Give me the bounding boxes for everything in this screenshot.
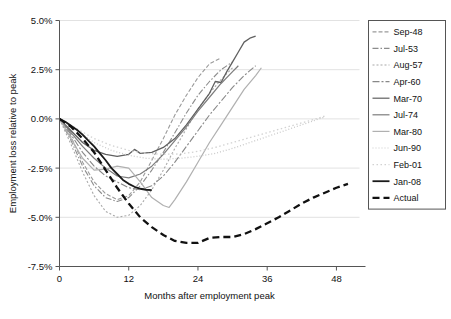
x-tick-label-0: 0 bbox=[57, 273, 62, 284]
legend-label-sep-48[interactable]: Sep-48 bbox=[394, 27, 423, 37]
chart-container: 5.0%2.5%0.0%-2.5%-5.0%-7.5%012243648Mont… bbox=[0, 0, 451, 319]
legend-label-apr-60[interactable]: Apr-60 bbox=[394, 77, 421, 87]
legend-label-feb-01[interactable]: Feb-01 bbox=[394, 160, 423, 170]
gridlines bbox=[60, 21, 360, 218]
y-tick-label-1: 2.5% bbox=[31, 64, 53, 75]
axis-ticks bbox=[56, 21, 337, 271]
legend-label-mar-70[interactable]: Mar-70 bbox=[394, 94, 423, 104]
series-feb-01 bbox=[60, 116, 325, 154]
legend-label-jan-08[interactable]: Jan-08 bbox=[394, 177, 422, 187]
y-tick-label-4: -5.0% bbox=[28, 212, 53, 223]
legend-label-actual[interactable]: Actual bbox=[394, 193, 419, 203]
legend-label-jul-74[interactable]: Jul-74 bbox=[394, 110, 419, 120]
x-tick-label-3: 36 bbox=[262, 273, 273, 284]
series-mar-70 bbox=[60, 36, 256, 156]
x-axis-title: Months after employment peak bbox=[144, 290, 275, 301]
axis-labels: 5.0%2.5%0.0%-2.5%-5.0%-7.5%012243648Mont… bbox=[7, 15, 342, 301]
series-apr-60 bbox=[60, 66, 256, 190]
legend-label-mar-80[interactable]: Mar-80 bbox=[394, 127, 423, 137]
legend-label-aug-57[interactable]: Aug-57 bbox=[394, 60, 423, 70]
series-actual bbox=[60, 119, 348, 243]
x-tick-label-2: 24 bbox=[193, 273, 204, 284]
legend[interactable]: Sep-48Jul-53Aug-57Apr-60Mar-70Jul-74Mar-… bbox=[369, 21, 446, 210]
series-sep-48 bbox=[60, 58, 222, 200]
series-jul-53 bbox=[60, 62, 233, 202]
y-tick-label-0: 5.0% bbox=[31, 15, 53, 26]
data-series-layer bbox=[60, 36, 348, 243]
y-tick-label-5: -7.5% bbox=[28, 261, 53, 272]
legend-label-jun-90[interactable]: Jun-90 bbox=[394, 143, 422, 153]
employment-loss-line-chart: 5.0%2.5%0.0%-2.5%-5.0%-7.5%012243648Mont… bbox=[0, 0, 451, 319]
y-tick-label-3: -2.5% bbox=[28, 163, 53, 174]
series-jul-74 bbox=[60, 66, 239, 178]
y-tick-label-2: 0.0% bbox=[31, 113, 53, 124]
y-axis-title: Employment loss relative to peak bbox=[7, 74, 18, 214]
legend-label-jul-53[interactable]: Jul-53 bbox=[394, 44, 419, 54]
x-tick-label-4: 48 bbox=[331, 273, 342, 284]
x-tick-label-1: 12 bbox=[123, 273, 134, 284]
